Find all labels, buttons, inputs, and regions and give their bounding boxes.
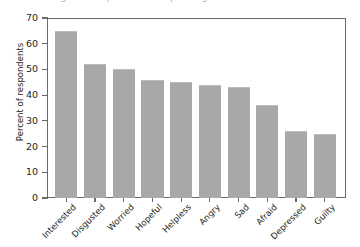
bar-slot — [167, 18, 196, 198]
bar — [314, 134, 336, 198]
x-axis-category-label: Afraid — [254, 202, 279, 227]
bar — [285, 131, 307, 198]
x-axis-category-label: Guilty — [312, 202, 337, 227]
bar-slot — [196, 18, 225, 198]
bar — [170, 82, 192, 198]
y-axis-tick-label: 50 — [0, 64, 38, 74]
x-axis-category-label: Worried — [105, 202, 136, 233]
bar-slot — [52, 18, 81, 198]
bar — [199, 85, 221, 198]
bar — [256, 105, 278, 198]
bar — [113, 69, 135, 198]
bar — [55, 31, 77, 198]
x-axis-category-label: Angry — [197, 202, 222, 227]
bar — [84, 64, 106, 198]
bar-slot — [224, 18, 253, 198]
y-axis-tick-label: 0 — [0, 193, 38, 203]
bar-series — [47, 18, 346, 198]
bar-slot — [310, 18, 339, 198]
bar — [228, 87, 250, 198]
x-axis-category-label: Sad — [232, 202, 251, 221]
y-axis-tick-label: 40 — [0, 90, 38, 100]
bar-slot — [282, 18, 311, 198]
bar-slot — [81, 18, 110, 198]
y-axis-tick-label: 20 — [0, 142, 38, 152]
bar — [141, 80, 163, 198]
x-axis-category-labels: InterestedDisgustedWorriedHopefulHelples… — [47, 198, 346, 247]
bar-slot — [253, 18, 282, 198]
cropped-caption-text: Percentage of respondents reporting each… — [14, 0, 284, 2]
y-axis-tick-label: 10 — [0, 167, 38, 177]
y-axis-tick-label: 30 — [0, 116, 38, 126]
cropped-caption-remnant: Percentage of respondents reporting each… — [0, 0, 360, 7]
y-axis-tick-label: 70 — [0, 13, 38, 23]
y-axis-tick-label: 60 — [0, 39, 38, 49]
x-axis-category-label: Helpless — [161, 202, 194, 235]
bar-slot — [109, 18, 138, 198]
bar-slot — [138, 18, 167, 198]
bar-chart-figure: Percentage of respondents reporting each… — [0, 0, 360, 247]
